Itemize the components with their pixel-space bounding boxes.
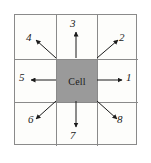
direction-label-2: 2	[119, 32, 125, 43]
direction-label-4: 4	[26, 32, 32, 43]
direction-label-1: 1	[126, 72, 132, 83]
direction-label-5: 5	[19, 72, 25, 83]
direction-label-6: 6	[28, 114, 34, 125]
direction-label-7: 7	[70, 130, 76, 141]
direction-label-8: 8	[117, 114, 123, 125]
grid-horizontal-line-2	[15, 102, 138, 103]
grid-vertical-line-2	[97, 15, 98, 146]
direction-label-3: 3	[70, 18, 76, 29]
cell-neighborhood-diagram: Cell 1 2 3 4 5 6 7 8	[0, 0, 151, 163]
center-cell-label: Cell	[57, 60, 97, 102]
center-cell: Cell	[57, 60, 97, 102]
